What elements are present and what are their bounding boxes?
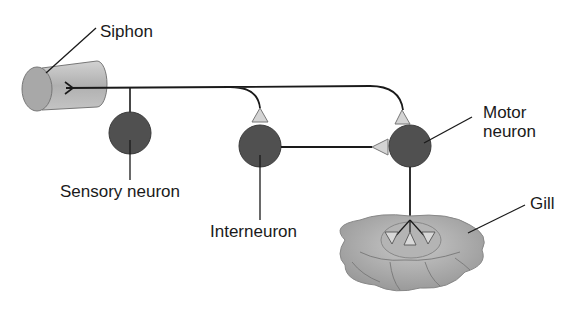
motor-neuron — [389, 125, 431, 167]
synapse-icon — [252, 108, 268, 122]
circuit-diagram — [0, 0, 582, 309]
synapse-icon — [372, 139, 388, 155]
sensory-neuron-label: Sensory neuron — [60, 182, 180, 201]
synapse-icon — [395, 110, 410, 124]
gill — [340, 205, 525, 291]
gill-label: Gill — [530, 194, 555, 213]
motor-neuron-label-line1: Motor — [483, 103, 526, 122]
motor-neuron-label-line2: neuron — [483, 122, 536, 141]
sensory-axon — [66, 86, 403, 110]
siphon — [22, 28, 107, 111]
interneuron-label: Interneuron — [210, 222, 297, 241]
siphon-label: Siphon — [100, 22, 153, 41]
